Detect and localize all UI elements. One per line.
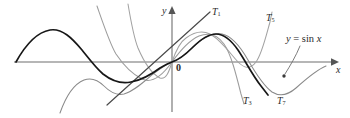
curve-label-t1-subscript: 1 [218,10,221,17]
function-label-leader-dot [282,74,285,77]
function-label-sin: sin [302,33,317,44]
curve-label-t1: T1 [212,7,221,18]
curve-t7 [60,34,326,113]
function-label-x: x [317,33,322,44]
taylor-polynomial-figure: T1 T5 T3 T7 y x 0 y = sin x [0,0,350,118]
curve-label-t5-subscript: 5 [272,16,275,23]
curve-t1-line [107,12,210,105]
curve-label-t5: T5 [266,13,275,24]
plot-canvas [0,0,350,118]
curve-t3 [97,6,244,104]
t1-guide [88,13,208,14]
origin-label: 0 [176,63,181,73]
function-label: y = sin x [286,34,321,45]
function-label-equals: = [291,33,302,44]
curve-label-t7-subscript: 7 [283,99,286,106]
curve-label-t3: T3 [243,96,252,107]
y-axis-label: y [162,6,166,16]
curve-label-t7: T7 [277,96,286,107]
curve-label-t3-subscript: 3 [249,99,252,106]
function-label-leader-line [285,46,300,74]
y-axis-arrowhead [168,6,175,14]
x-axis-label: x [336,65,340,75]
